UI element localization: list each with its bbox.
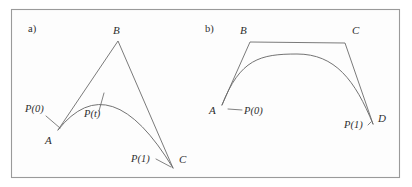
panel-a-point-B-label: B <box>113 24 120 36</box>
panel-b-point-D-label: D <box>377 112 386 124</box>
figure-container: a) A B C P(0) P(t) P(1) b) A B C D P(0) … <box>0 0 412 187</box>
panel-a-point-C-label: C <box>179 153 187 165</box>
panel-a-annotation-p1: P(1) <box>130 153 150 165</box>
panel-b-point-A-label: A <box>208 104 216 116</box>
panel-b-annotation-p1: P(1) <box>343 119 363 131</box>
figure-frame <box>12 10 400 178</box>
panel-a-annotation-pt: P(t) <box>83 108 101 120</box>
panel-b-annotation-p0: P(0) <box>243 105 263 117</box>
panel-a-point-A-label: A <box>44 134 52 146</box>
panel-b-label: b) <box>205 23 214 35</box>
figure-svg: a) A B C P(0) P(t) P(1) b) A B C D P(0) … <box>0 0 412 187</box>
panel-a-label: a) <box>28 23 37 35</box>
panel-b-point-B-label: B <box>240 24 247 36</box>
panel-b-point-C-label: C <box>352 24 360 36</box>
panel-a-annotation-p0: P(0) <box>24 103 44 115</box>
